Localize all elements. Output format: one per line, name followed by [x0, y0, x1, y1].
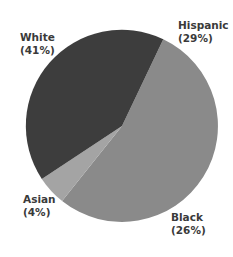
pie-chart: White (41%) Hispanic (29%) Black (26%) A…: [0, 0, 233, 257]
label-asian-name: Asian: [23, 193, 56, 206]
label-hispanic: Hispanic (29%): [178, 19, 229, 45]
label-black-value: (26%): [171, 224, 206, 237]
label-black-name: Black: [171, 211, 206, 224]
label-hispanic-value: (29%): [178, 32, 229, 45]
label-white-value: (41%): [20, 44, 55, 57]
label-black: Black (26%): [171, 211, 206, 237]
label-asian: Asian (4%): [23, 193, 56, 219]
label-hispanic-name: Hispanic: [178, 19, 229, 32]
label-white-name: White: [20, 31, 55, 44]
label-asian-value: (4%): [23, 206, 56, 219]
label-white: White (41%): [20, 31, 55, 57]
